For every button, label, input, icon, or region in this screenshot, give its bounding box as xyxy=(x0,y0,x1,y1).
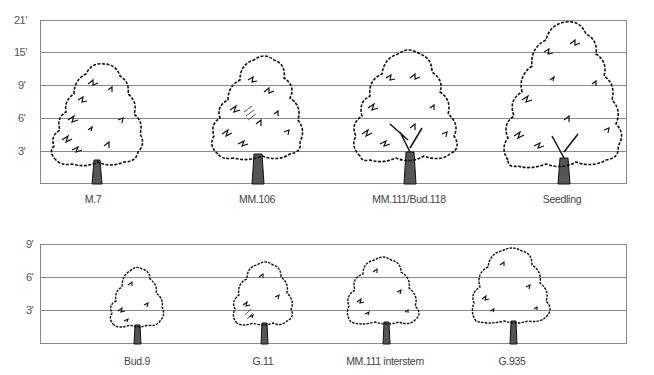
tree-mm111-bud118-illustration xyxy=(350,48,466,184)
y-tick-label: 6′ xyxy=(26,271,33,283)
y-tick-label: 9′ xyxy=(18,79,25,91)
y-tick-label: 21′ xyxy=(14,14,27,26)
tree-m7-illustration xyxy=(48,60,143,184)
tree-label: MM.111/Bud.118 xyxy=(372,193,445,205)
tree-g935-illustration xyxy=(470,247,554,344)
y-tick-label: 6′ xyxy=(18,112,25,124)
tree-label: Bud.9 xyxy=(124,355,150,367)
y-tick-label: 3′ xyxy=(26,304,33,316)
tree-mm111-interstem-illustration xyxy=(345,256,425,344)
y-tick-label: 3′ xyxy=(18,145,25,157)
tree-label: MM.111 interstem xyxy=(346,355,424,367)
tree-label: MM.106 xyxy=(239,193,275,205)
tree-label: M.7 xyxy=(85,193,102,205)
gridline-9 xyxy=(40,244,627,245)
tree-seedling-illustration xyxy=(500,20,626,184)
tree-g11-illustration xyxy=(231,261,295,344)
tree-mm106-illustration xyxy=(208,52,308,184)
tree-bud9-illustration xyxy=(108,265,166,344)
tree-label: Seedling xyxy=(543,193,581,205)
tree-label: G.11 xyxy=(253,355,274,367)
tree-label: G.935 xyxy=(498,355,525,367)
y-tick-label: 15′ xyxy=(14,46,27,58)
y-tick-label: 9′ xyxy=(26,238,33,250)
